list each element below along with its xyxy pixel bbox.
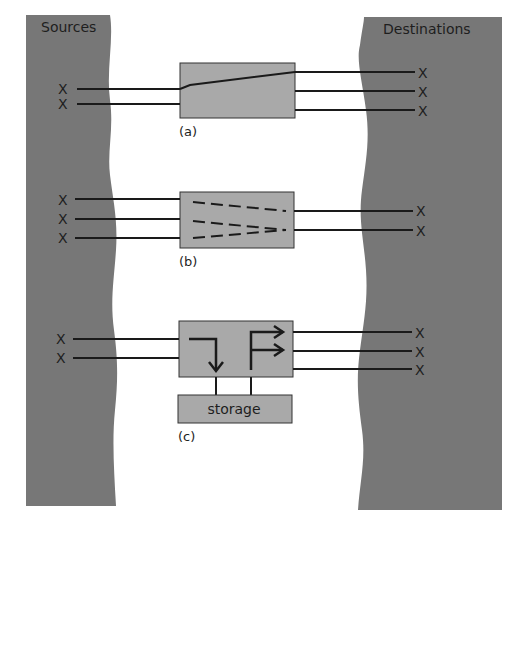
- destination-marker: X: [418, 65, 428, 81]
- destination-marker: X: [415, 344, 425, 360]
- caption-c: (c): [178, 429, 195, 444]
- switching-diagram: Sources Destinations X X X X X (a) X X X…: [0, 0, 524, 671]
- caption-b: (b): [179, 254, 197, 269]
- source-marker: X: [58, 96, 68, 112]
- source-marker: X: [56, 331, 66, 347]
- destination-marker: X: [416, 203, 426, 219]
- destination-marker: X: [416, 223, 426, 239]
- sources-title: Sources: [41, 19, 96, 35]
- source-marker: X: [56, 350, 66, 366]
- destination-marker: X: [418, 84, 428, 100]
- source-marker: X: [58, 230, 68, 246]
- source-marker: X: [58, 81, 68, 97]
- switch-box-a: [180, 63, 295, 118]
- destination-marker: X: [415, 325, 425, 341]
- caption-a: (a): [179, 124, 197, 139]
- switch-box-b: [180, 192, 294, 248]
- source-marker: X: [58, 192, 68, 208]
- storage-label: storage: [207, 401, 260, 417]
- source-marker: X: [58, 211, 68, 227]
- destinations-title: Destinations: [383, 21, 471, 37]
- destination-marker: X: [418, 103, 428, 119]
- destination-marker: X: [415, 362, 425, 378]
